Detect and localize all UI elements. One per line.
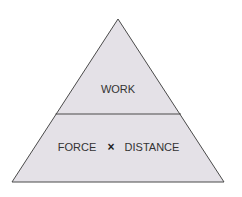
work-formula-triangle: WORK FORCE × DISTANCE bbox=[0, 0, 242, 197]
work-label: WORK bbox=[101, 83, 136, 95]
multiply-sign: × bbox=[107, 140, 114, 154]
force-label: FORCE bbox=[58, 141, 97, 153]
triangle-shape bbox=[12, 19, 224, 182]
distance-label: DISTANCE bbox=[125, 141, 180, 153]
